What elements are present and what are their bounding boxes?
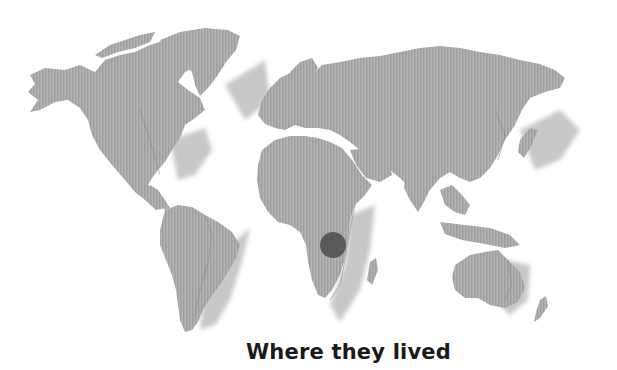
region-india bbox=[404, 172, 432, 212]
region-indonesia bbox=[440, 222, 520, 248]
region-southeast-asia bbox=[440, 185, 470, 215]
continent-south-america bbox=[160, 205, 240, 332]
land bbox=[28, 28, 565, 332]
world-map-figure: Where they lived bbox=[0, 0, 617, 370]
location-marker bbox=[320, 232, 346, 258]
island-new-zealand bbox=[534, 296, 548, 322]
island-madagascar bbox=[367, 258, 378, 285]
continent-australia bbox=[452, 250, 525, 308]
map-title: Where they lived bbox=[0, 338, 617, 366]
continent-north-america bbox=[28, 38, 205, 210]
world-map bbox=[0, 0, 617, 340]
